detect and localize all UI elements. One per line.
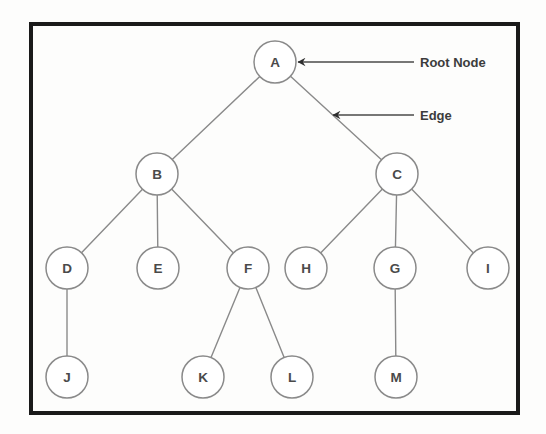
tree-node-e[interactable]: E bbox=[137, 247, 179, 289]
tree-edge-c-h bbox=[321, 189, 383, 253]
tree-diagram-canvas: ABCDEFHGIJKLM Root NodeEdge bbox=[0, 0, 546, 434]
node-label-k: K bbox=[198, 370, 208, 385]
node-label-m: M bbox=[390, 370, 401, 385]
tree-diagram-figure: ABCDEFHGIJKLM Root NodeEdge bbox=[0, 0, 546, 434]
tree-edges-group bbox=[67, 76, 473, 357]
tree-node-i[interactable]: I bbox=[467, 247, 509, 289]
tree-node-f[interactable]: F bbox=[227, 247, 269, 289]
node-label-g: G bbox=[390, 261, 401, 276]
tree-node-l[interactable]: L bbox=[271, 356, 313, 398]
tree-node-a[interactable]: A bbox=[254, 41, 296, 83]
node-label-c: C bbox=[392, 167, 402, 182]
tree-node-g[interactable]: G bbox=[374, 247, 416, 289]
tree-edge-f-k bbox=[211, 287, 240, 357]
node-label-d: D bbox=[62, 261, 72, 276]
node-label-b: B bbox=[152, 167, 162, 182]
tree-node-j[interactable]: J bbox=[46, 356, 88, 398]
tree-node-d[interactable]: D bbox=[46, 247, 88, 289]
tree-node-c[interactable]: C bbox=[376, 153, 418, 195]
node-label-l: L bbox=[288, 370, 296, 385]
tree-edge-g-m bbox=[395, 289, 396, 356]
tree-edge-a-b bbox=[172, 76, 260, 159]
annotations-group: Root NodeEdge bbox=[298, 55, 486, 123]
tree-edge-a-c bbox=[290, 76, 381, 160]
tree-edge-b-f bbox=[172, 189, 234, 253]
tree-node-h[interactable]: H bbox=[285, 247, 327, 289]
node-label-e: E bbox=[153, 261, 162, 276]
node-label-h: H bbox=[301, 261, 311, 276]
annotation-edge: Edge bbox=[333, 108, 452, 123]
node-label-a: A bbox=[270, 55, 280, 70]
tree-edge-b-e bbox=[157, 195, 158, 247]
node-label-j: J bbox=[63, 370, 71, 385]
tree-nodes-group: ABCDEFHGIJKLM bbox=[46, 41, 509, 398]
tree-node-k[interactable]: K bbox=[182, 356, 224, 398]
node-label-i: I bbox=[486, 261, 490, 276]
annotation-root-node: Root Node bbox=[298, 55, 486, 70]
tree-edge-b-d bbox=[82, 189, 143, 253]
tree-edge-c-i bbox=[412, 189, 474, 253]
annotation-label-root-node: Root Node bbox=[420, 55, 486, 70]
node-label-f: F bbox=[244, 261, 252, 276]
tree-node-b[interactable]: B bbox=[136, 153, 178, 195]
tree-node-m[interactable]: M bbox=[375, 356, 417, 398]
annotation-label-edge: Edge bbox=[420, 108, 452, 123]
tree-edge-f-l bbox=[256, 287, 284, 357]
tree-edge-c-g bbox=[395, 195, 396, 247]
